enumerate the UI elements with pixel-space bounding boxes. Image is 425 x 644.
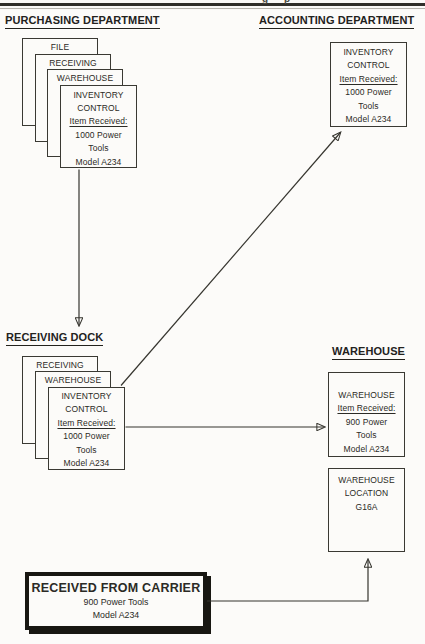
form-file-label: FILE [23, 39, 97, 52]
box-received-from-carrier: RECEIVED FROM CARRIER 900 Power Tools Mo… [25, 572, 207, 630]
doc-line: Model A234 [49, 457, 124, 470]
doc-line: Model A234 [61, 156, 136, 169]
scanned-diagram-page: g p PURCHASING DEPARTMENT ACCOUNTING DEP… [0, 0, 425, 644]
doc-line: G16A [329, 501, 404, 514]
doc-line: CONTROL [49, 403, 124, 416]
doc-line: INVENTORY [49, 390, 124, 403]
box-warehouse-copy: WAREHOUSE Item Received: 900 Power Tools… [328, 372, 405, 457]
doc-line: INVENTORY [61, 89, 136, 102]
form-warehouse-label: WAREHOUSE [36, 372, 110, 385]
heading-warehouse: WAREHOUSE [332, 345, 405, 360]
doc-line: LOCATION [329, 487, 404, 500]
doc-line: Model A234 [329, 443, 404, 456]
doc-line: WAREHOUSE [329, 474, 404, 487]
carrier-title: RECEIVED FROM CARRIER [29, 581, 203, 596]
doc-line: Item Received: [331, 73, 406, 86]
doc-line: Tools [49, 444, 124, 457]
form-inventory-control-purchasing: INVENTORY CONTROL Item Received: 1000 Po… [60, 85, 137, 168]
doc-line: Item Received: [49, 417, 124, 430]
doc-line: 900 Power [329, 416, 404, 429]
form-warehouse-label: WAREHOUSE [48, 70, 122, 83]
doc-line: Tools [331, 100, 406, 113]
doc-line: Item Received: [61, 115, 136, 128]
heading-accounting-department: ACCOUNTING DEPARTMENT [259, 14, 414, 29]
doc-line: Tools [329, 429, 404, 442]
box-inventory-control-accounting: INVENTORY CONTROL Item Received: 1000 Po… [330, 42, 407, 127]
doc-line: Tools [61, 142, 136, 155]
running-header-fragment: g p [257, 0, 305, 5]
arrow-receiving-dock-to-accounting [121, 133, 340, 386]
heading-receiving-dock: RECEIVING DOCK [6, 331, 103, 346]
doc-line: Item Received: [329, 402, 404, 415]
form-receiving-label: RECEIVING [36, 55, 110, 68]
carrier-line: 900 Power Tools [29, 596, 203, 609]
page-top-rule-thin [0, 8, 425, 9]
doc-line: 1000 Power [61, 129, 136, 142]
doc-line: 1000 Power [331, 86, 406, 99]
form-inventory-control-receiving-dock: INVENTORY CONTROL Item Received: 1000 Po… [48, 387, 125, 470]
doc-line: Model A234 [331, 113, 406, 126]
box-warehouse-location: WAREHOUSE LOCATION G16A [328, 468, 405, 552]
doc-line: CONTROL [61, 102, 136, 115]
doc-line: CONTROL [331, 59, 406, 72]
carrier-line: Model A234 [29, 609, 203, 622]
doc-line: WAREHOUSE [329, 389, 404, 402]
form-receiving-label: RECEIVING [23, 357, 97, 370]
page-top-rule [0, 3, 425, 6]
doc-line: 1000 Power [49, 430, 124, 443]
heading-purchasing-department: PURCHASING DEPARTMENT [5, 14, 160, 29]
doc-line: INVENTORY [331, 46, 406, 59]
arrow-carrier-to-warehouse-location [207, 560, 368, 601]
